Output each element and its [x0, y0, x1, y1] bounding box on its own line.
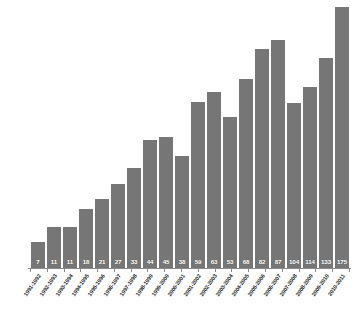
cat-slot: 2000-2001 — [174, 272, 190, 328]
bar[interactable]: 63 — [207, 92, 222, 268]
bar-slot: 11 — [62, 4, 78, 268]
bar-value-label: 7 — [36, 259, 39, 268]
cat-slot: 1994-1995 — [78, 272, 94, 328]
x-axis-category-labels: 1991-1992 1992-1993 1993-1994 1994-1995 … — [30, 272, 350, 328]
bar-slot: 27 — [110, 4, 126, 268]
bar[interactable]: 175 — [335, 7, 350, 268]
bar[interactable]: 45 — [159, 137, 174, 268]
cat-slot: 2009-2010 — [318, 272, 334, 328]
cat-slot: 1993-1994 — [62, 272, 78, 328]
bar-slot: 82 — [254, 4, 270, 268]
bar[interactable]: 133 — [319, 58, 334, 268]
bar-slot: 104 — [286, 4, 302, 268]
bar[interactable]: 82 — [255, 49, 270, 268]
cat-slot: 1992-1993 — [46, 272, 62, 328]
cat-slot: 2005-2006 — [254, 272, 270, 328]
bar[interactable]: 38 — [175, 156, 190, 268]
bar[interactable]: 87 — [271, 40, 286, 268]
bar[interactable]: 53 — [223, 117, 238, 268]
bar[interactable]: 68 — [239, 79, 254, 268]
cat-slot: 1991-1992 — [30, 272, 46, 328]
bar-slot: 114 — [302, 4, 318, 268]
bar-slot: 63 — [206, 4, 222, 268]
bar-slot: 87 — [270, 4, 286, 268]
cat-slot: 2008-2009 — [302, 272, 318, 328]
cat-slot: 1997-1998 — [126, 272, 142, 328]
bar-slot: 21 — [94, 4, 110, 268]
cat-slot: 2002-2003 — [206, 272, 222, 328]
bar-slot: 7 — [30, 4, 46, 268]
bar-series: 7 11 11 18 21 — [30, 4, 350, 268]
cat-slot: 2007-2008 — [286, 272, 302, 328]
cat-slot: 1999-2000 — [158, 272, 174, 328]
plot-area: 7 11 11 18 21 — [30, 4, 350, 268]
bar[interactable]: 44 — [143, 140, 158, 268]
cat-slot: 1996-1997 — [110, 272, 126, 328]
bar-slot: 33 — [126, 4, 142, 268]
cat-slot: 2004-2005 — [238, 272, 254, 328]
bar-slot: 45 — [158, 4, 174, 268]
bar[interactable]: 104 — [287, 103, 302, 268]
cat-slot: 1998-1999 — [142, 272, 158, 328]
cat-slot: 2003-2004 — [222, 272, 238, 328]
bar-slot: 133 — [318, 4, 334, 268]
bar[interactable]: 59 — [191, 102, 206, 268]
bar-slot: 18 — [78, 4, 94, 268]
bar-slot: 59 — [190, 4, 206, 268]
bar-chart: 7 11 11 18 21 — [0, 0, 360, 328]
bar-slot: 68 — [238, 4, 254, 268]
cat-slot: 2006-2007 — [270, 272, 286, 328]
bar-slot: 11 — [46, 4, 62, 268]
bar-slot: 53 — [222, 4, 238, 268]
bar[interactable]: 114 — [303, 87, 318, 268]
cat-slot: 2010-2011 — [334, 272, 350, 328]
bar-slot: 44 — [142, 4, 158, 268]
bar-slot: 175 — [334, 4, 350, 268]
bar-slot: 38 — [174, 4, 190, 268]
cat-slot: 1995-1996 — [94, 272, 110, 328]
cat-slot: 2001-2002 — [190, 272, 206, 328]
